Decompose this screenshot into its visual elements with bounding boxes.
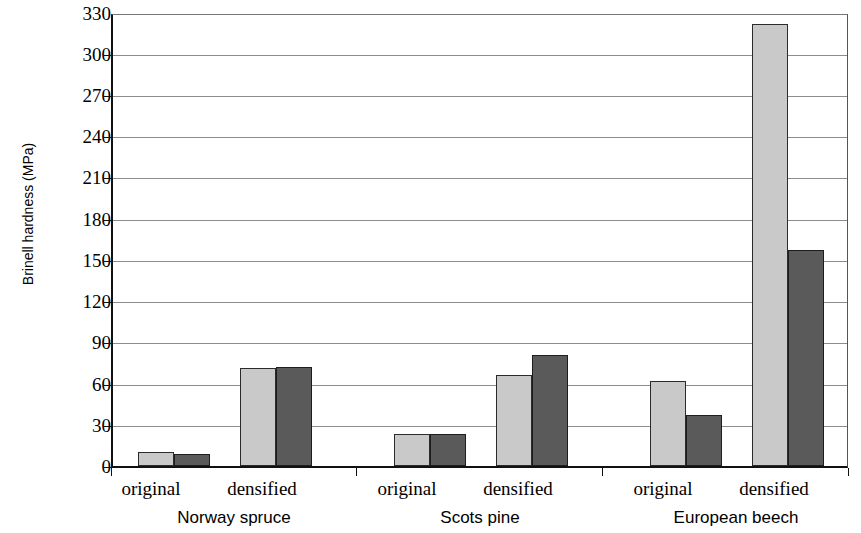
x-group-label-european-beech: European beech [626,508,846,528]
gridline-180 [113,220,847,221]
y-axis: 330 300 270 240 210 180 150 120 90 60 30… [0,0,111,533]
bar-norway-spruce-densified-light [240,368,276,466]
y-tick-label-180: 180 [49,210,111,229]
y-tick-mark-240 [104,137,111,138]
y-tick-label-330: 330 [49,4,111,23]
gridline-300 [113,55,847,56]
gridline-240 [113,137,847,138]
x-tick-mark-group-2-3 [602,468,603,476]
bar-norway-spruce-original-dark [174,454,210,466]
y-tick-label-0: 0 [49,457,111,476]
bar-norway-spruce-densified-dark [276,367,312,466]
y-tick-mark-270 [104,96,111,97]
bar-scots-pine-densified-light [496,375,532,466]
y-tick-label-270: 270 [49,86,111,105]
bar-scots-pine-densified-dark [532,355,568,466]
x-group-label-norway-spruce: Norway spruce [134,508,334,528]
bar-european-beech-densified-light [752,24,788,466]
x-tick-mark-end [848,468,849,476]
x-label-european-beech-densified: densified [712,478,836,500]
x-label-norway-spruce-original: original [96,478,206,500]
gridline-60 [113,385,847,386]
gridline-210 [113,178,847,179]
x-tick-mark-group-1-2 [356,468,357,476]
bar-scots-pine-original-light [394,434,430,466]
y-tick-mark-120 [104,302,111,303]
y-tick-label-30: 30 [49,416,111,435]
gridline-270 [113,96,847,97]
bar-norway-spruce-original-light [138,452,174,466]
y-tick-mark-300 [104,55,111,56]
gridline-30 [113,426,847,427]
bar-scots-pine-original-dark [430,434,466,466]
y-tick-label-60: 60 [49,375,111,394]
y-tick-label-90: 90 [49,333,111,352]
y-tick-label-240: 240 [49,127,111,146]
x-group-label-scots-pine: Scots pine [380,508,580,528]
bar-european-beech-original-dark [686,415,722,466]
gridline-120 [113,302,847,303]
plot-area [111,14,848,468]
y-tick-mark-60 [104,385,111,386]
y-tick-mark-150 [104,261,111,262]
bar-european-beech-original-light [650,381,686,466]
x-label-scots-pine-densified: densified [456,478,580,500]
y-tick-mark-180 [104,220,111,221]
y-tick-label-210: 210 [49,168,111,187]
y-tick-mark-210 [104,178,111,179]
x-label-scots-pine-original: original [352,478,462,500]
y-tick-mark-30 [104,426,111,427]
x-label-european-beech-original: original [608,478,718,500]
y-tick-mark-90 [104,343,111,344]
gridline-150 [113,261,847,262]
bar-chart-figure: Brinell hardness (MPa) 330 300 270 240 2… [0,0,861,533]
bar-european-beech-densified-dark [788,250,824,466]
y-tick-label-300: 300 [49,45,111,64]
x-tick-mark-start [111,468,112,476]
y-tick-mark-0 [104,467,111,468]
y-tick-label-120: 120 [49,292,111,311]
x-label-norway-spruce-densified: densified [200,478,324,500]
y-tick-label-150: 150 [49,251,111,270]
gridline-90 [113,343,847,344]
